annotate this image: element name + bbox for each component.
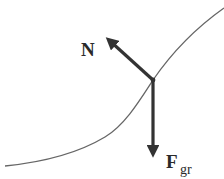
- gravity-force-subscript: gr: [180, 162, 192, 177]
- gravity-force-label: F: [166, 151, 178, 172]
- normal-force-arrow: [110, 41, 153, 80]
- contact-point: [151, 78, 156, 83]
- normal-force-label: N: [81, 39, 95, 60]
- slope-curve: [5, 8, 224, 166]
- free-body-diagram: N F gr: [0, 0, 224, 179]
